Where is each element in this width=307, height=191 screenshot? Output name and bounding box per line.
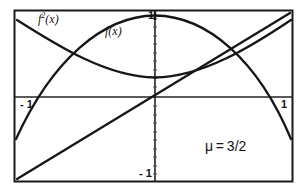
y-axis-tick-label-max: 1 (148, 10, 154, 21)
x-axis-tick-label-max: 1 (281, 99, 287, 110)
curve-label-f2-arg: (x) (45, 12, 58, 26)
curve-label-f: f(x) (105, 25, 122, 37)
figure-panel: - 1 1 1 - 1 f2(x) f(x) μ = 3/2 (0, 0, 307, 191)
plot-canvas (0, 0, 307, 191)
curve-label-f2: f2(x) (38, 12, 59, 25)
parameter-annotation: μ = 3/2 (205, 139, 246, 153)
y-axis-tick-label-min: - 1 (139, 168, 152, 179)
x-axis-tick-label-min: - 1 (20, 99, 33, 110)
